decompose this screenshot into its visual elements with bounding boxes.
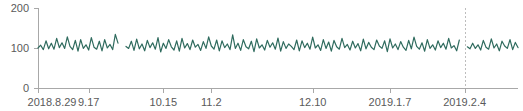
y-tick-label: 0 — [23, 82, 29, 94]
x-tick-label: 12.10 — [299, 96, 327, 108]
y-axis: 0100200 — [11, 2, 39, 94]
x-axis: 2018.8.299.1710.1511.212.102019.1.72019.… — [28, 89, 518, 109]
series-layer — [38, 34, 518, 52]
series-line-value-segment-1 — [126, 35, 459, 52]
chart-canvas: 0100200 2018.8.299.1710.1511.212.102019.… — [0, 0, 523, 111]
series-line-value-segment-0 — [38, 34, 118, 51]
x-tick-label: 2018.8.29 — [28, 96, 77, 108]
x-tick-label: 2019.1.7 — [369, 96, 412, 108]
x-tick-label: 2019.2.4 — [443, 96, 486, 108]
series-line-value-segment-2 — [467, 39, 518, 51]
x-tick-label: 11.2 — [201, 96, 222, 108]
x-tick-label: 9.17 — [78, 96, 99, 108]
x-tick-label: 10.15 — [150, 96, 178, 108]
y-tick-label: 100 — [11, 42, 29, 54]
y-tick-label: 200 — [11, 2, 29, 14]
line-chart: 0100200 2018.8.299.1710.1511.212.102019.… — [0, 0, 523, 111]
